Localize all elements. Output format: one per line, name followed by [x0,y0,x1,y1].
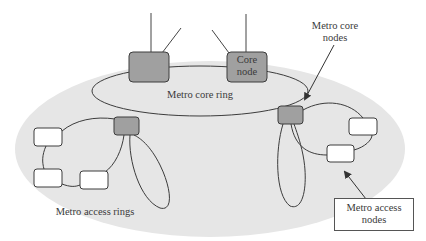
core-node-label-line2: node [228,66,266,78]
access-node-l1 [34,128,62,146]
metro-access-nodes-label-line2: nodes [335,214,413,226]
uplink-line [162,28,181,53]
access-node-r1 [349,118,377,135]
metro-network-diagram: Core node Metro core ring Metro core nod… [0,0,426,241]
access-node-r2 [327,145,354,162]
core-node-label-line1: Core [228,54,266,66]
core-node-label: Core node [228,54,266,78]
metro-core-node-right [278,106,303,124]
metro-core-nodes-label: Metro core nodes [300,20,370,44]
metro-access-nodes-callout: Metro access nodes [334,198,414,231]
metro-access-rings-label: Metro access rings [50,206,140,218]
access-node-l3 [80,171,108,189]
uplink-line [212,30,229,53]
core-node-left [129,52,169,82]
metro-access-nodes-label: Metro access nodes [335,202,413,226]
metro-core-nodes-label-line1: Metro core [300,20,370,32]
metro-access-nodes-label-line1: Metro access [335,202,413,214]
access-node-l2 [34,169,62,187]
metro-core-node-left [114,117,139,135]
metro-core-nodes-label-line2: nodes [300,32,370,44]
metro-core-ring-label: Metro core ring [158,89,242,101]
